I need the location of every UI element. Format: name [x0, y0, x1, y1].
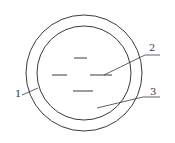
tube-cross-section-diagram: [0, 0, 175, 143]
label-1: 1: [15, 89, 21, 99]
label-3: 3: [150, 87, 156, 97]
dashes: [52, 58, 112, 91]
leader-2: [104, 55, 160, 75]
inner-circle: [37, 26, 131, 120]
outer-circle: [26, 15, 142, 131]
label-2: 2: [149, 43, 155, 53]
leaders: [22, 55, 160, 108]
leader-3: [97, 97, 160, 108]
